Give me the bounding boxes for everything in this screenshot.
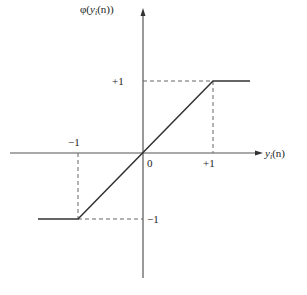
activation-curve (38, 81, 250, 219)
activation-function-graph: φ(yi(n)) yi(n) 0 −1 +1 +1 −1 (0, 0, 307, 295)
y-tick-neg-one: −1 (147, 213, 159, 225)
x-tick-pos-one: +1 (203, 157, 215, 169)
x-axis-label: yi(n) (264, 147, 285, 161)
origin-label: 0 (147, 157, 153, 169)
y-axis-arrow-icon (141, 8, 146, 16)
y-tick-pos-one: +1 (112, 75, 124, 87)
x-tick-neg-one: −1 (68, 136, 80, 148)
x-axis-arrow-icon (255, 151, 263, 156)
y-axis-label: φ(yi(n)) (80, 3, 114, 17)
